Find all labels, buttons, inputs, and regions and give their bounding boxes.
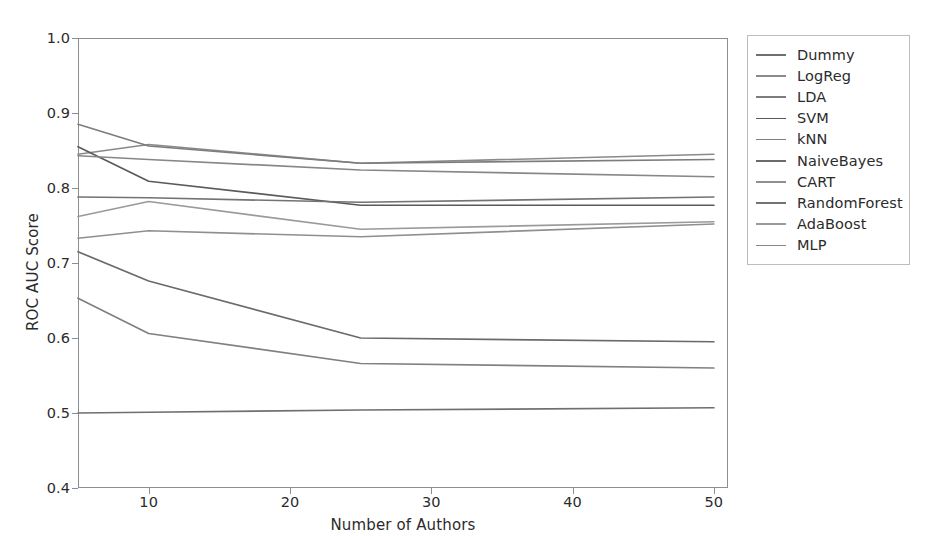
x-tick-mark — [714, 488, 715, 494]
legend-item-label: Dummy — [788, 47, 855, 63]
legend-item-label: NaiveBayes — [788, 153, 883, 169]
legend-item-label: SVM — [788, 110, 829, 126]
chart-legend: DummyLogRegLDASVMkNNNaiveBayesCARTRandom… — [747, 35, 910, 265]
legend-item-svm[interactable]: SVM — [754, 108, 902, 129]
y-axis-title: ROC AUC Score — [24, 162, 42, 382]
series-line-knn — [78, 298, 714, 368]
legend-item-adaboost[interactable]: AdaBoost — [754, 214, 902, 235]
legend-line-swatch-icon — [754, 156, 788, 166]
legend-item-label: MLP — [788, 237, 827, 253]
series-line-randomforest — [78, 197, 714, 202]
legend-item-label: LogReg — [788, 68, 851, 84]
series-line-dummy — [78, 408, 714, 413]
legend-item-naivebayes[interactable]: NaiveBayes — [754, 150, 902, 171]
legend-item-cart[interactable]: CART — [754, 171, 902, 192]
legend-item-label: CART — [788, 174, 835, 190]
legend-item-lda[interactable]: LDA — [754, 86, 902, 107]
y-tick-mark — [72, 338, 78, 339]
legend-item-label: RandomForest — [788, 195, 903, 211]
y-tick-label: 0.4 — [6, 480, 70, 496]
y-tick-label: 0.5 — [6, 405, 70, 421]
x-tick-label: 10 — [119, 494, 179, 510]
series-line-cart — [78, 224, 714, 238]
y-tick-mark — [72, 488, 78, 489]
x-tick-mark — [431, 488, 432, 494]
legend-item-mlp[interactable]: MLP — [754, 235, 902, 256]
figure-canvas: 0.40.50.60.70.80.91.0 1020304050 ROC AUC… — [0, 0, 928, 536]
legend-line-swatch-icon — [754, 50, 788, 60]
x-tick-mark — [573, 488, 574, 494]
legend-item-randomforest[interactable]: RandomForest — [754, 192, 902, 213]
y-tick-mark — [72, 413, 78, 414]
legend-item-knn[interactable]: kNN — [754, 129, 902, 150]
line-chart-plot-area — [78, 38, 728, 488]
legend-line-swatch-icon — [754, 177, 788, 187]
legend-line-swatch-icon — [754, 198, 788, 208]
x-axis-title: Number of Authors — [78, 516, 728, 534]
legend-line-swatch-icon — [754, 92, 788, 102]
y-tick-mark — [72, 188, 78, 189]
x-tick-label: 40 — [543, 494, 603, 510]
x-tick-mark — [149, 488, 150, 494]
x-tick-mark — [290, 488, 291, 494]
y-tick-mark — [72, 38, 78, 39]
y-tick-label: 0.9 — [6, 105, 70, 121]
legend-line-swatch-icon — [754, 240, 788, 250]
y-tick-mark — [72, 263, 78, 264]
legend-item-label: AdaBoost — [788, 216, 866, 232]
x-tick-label: 30 — [401, 494, 461, 510]
legend-item-label: LDA — [788, 89, 826, 105]
legend-line-swatch-icon — [754, 134, 788, 144]
series-line-svm — [78, 147, 714, 206]
series-line-naivebayes — [78, 252, 714, 342]
y-tick-label: 1.0 — [6, 30, 70, 46]
x-tick-label: 20 — [260, 494, 320, 510]
legend-item-label: kNN — [788, 131, 827, 147]
series-line-mlp — [78, 156, 714, 177]
legend-line-swatch-icon — [754, 113, 788, 123]
y-tick-mark — [72, 113, 78, 114]
x-tick-label: 50 — [684, 494, 744, 510]
legend-line-swatch-icon — [754, 219, 788, 229]
legend-item-logreg[interactable]: LogReg — [754, 65, 902, 86]
legend-line-swatch-icon — [754, 71, 788, 81]
legend-item-dummy[interactable]: Dummy — [754, 44, 902, 65]
